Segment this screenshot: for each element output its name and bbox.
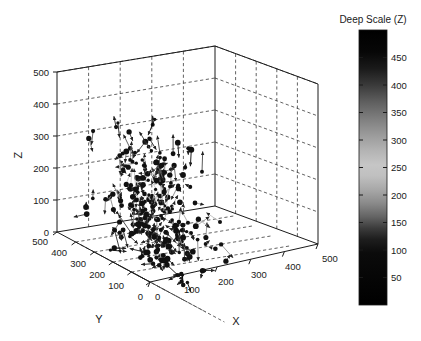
vector-origin-marker — [175, 140, 181, 146]
vector-origin-marker — [142, 223, 148, 229]
vector-origin-marker — [178, 251, 181, 254]
vector-origin-marker — [133, 186, 139, 192]
vector-origin-marker — [91, 197, 95, 201]
colorbar[interactable]: 450 400 350 300 250 200 150 100 50 Deep … — [339, 14, 406, 305]
vector-origin-marker — [130, 204, 134, 208]
vector-origin-marker — [141, 230, 145, 234]
vector-origin-marker — [127, 186, 131, 190]
x-tick-100: 100 — [184, 284, 200, 295]
vector-origin-marker — [164, 238, 169, 243]
x-axis-label: X — [232, 315, 240, 327]
z-tick-500: 500 — [33, 67, 49, 78]
vector-origin-marker — [116, 121, 119, 124]
colorbar-ticklabels: 450 400 350 300 250 200 150 100 50 — [391, 52, 407, 283]
vector-origin-marker — [163, 210, 166, 213]
x-tick-0: 0 — [155, 291, 160, 302]
vector-origin-marker — [171, 207, 174, 210]
vector-origin-marker — [91, 129, 95, 133]
vector-origin-marker — [135, 162, 138, 165]
colorbar-gradient-bar[interactable] — [359, 30, 387, 305]
vector-origin-marker — [193, 223, 199, 229]
vector-origin-marker — [158, 151, 162, 155]
vector-origin-marker — [196, 217, 201, 222]
vector-origin-marker — [182, 257, 187, 262]
figure-canvas: 500 400 300 200 100 0 Z 500 400 300 200 … — [0, 0, 421, 341]
vector-origin-marker — [149, 199, 154, 204]
vector-origin-marker — [203, 235, 208, 240]
vector-origin-marker — [143, 164, 147, 168]
z-tick-400: 400 — [33, 99, 49, 110]
vector-origin-marker — [158, 181, 162, 185]
vector-origin-marker — [200, 170, 204, 174]
vector-origin-marker — [140, 201, 145, 206]
vector-origin-marker — [204, 242, 208, 246]
colorbar-tick-350: 350 — [391, 107, 407, 118]
vector-origin-marker — [109, 248, 112, 251]
vector-origin-marker — [154, 159, 160, 165]
vector-origin-marker — [193, 201, 198, 206]
vector-origin-marker — [153, 118, 156, 121]
vector-origin-marker — [158, 156, 162, 160]
vector-origin-marker — [135, 217, 138, 220]
vector-arrow — [221, 244, 233, 258]
vector-origin-marker — [164, 230, 168, 234]
y-tick-0: 0 — [138, 291, 143, 302]
vector-origin-marker — [151, 261, 155, 265]
vector-origin-marker — [143, 216, 147, 220]
vector-field-arrows[interactable] — [74, 116, 233, 292]
plot-box-gridlines — [57, 46, 318, 322]
z-tick-200: 200 — [33, 163, 49, 174]
vector-origin-marker — [202, 268, 206, 272]
vector-arrow — [123, 230, 128, 248]
vector-origin-marker — [180, 235, 186, 241]
x-tick-200: 200 — [218, 276, 234, 287]
colorbar-tick-450: 450 — [391, 52, 407, 63]
colorbar-tick-50: 50 — [391, 272, 402, 283]
vector-origin-marker — [161, 253, 166, 258]
vector-origin-marker — [223, 259, 228, 264]
vector-origin-marker — [128, 146, 133, 151]
vector-origin-marker — [133, 228, 139, 234]
y-tick-100: 100 — [108, 280, 124, 291]
y-tick-300: 300 — [70, 258, 86, 269]
vector-origin-marker — [150, 204, 155, 209]
vector-origin-marker — [186, 281, 190, 285]
vector-origin-marker — [170, 218, 174, 222]
vector-origin-marker — [156, 218, 160, 222]
vector-origin-marker — [166, 206, 171, 211]
vector-origin-marker — [177, 199, 183, 205]
y-tick-500: 500 — [32, 236, 48, 247]
vector-origin-marker — [134, 198, 139, 203]
vector-origin-marker — [83, 204, 89, 210]
x-tick-500: 500 — [322, 253, 338, 264]
vector-origin-marker — [172, 163, 177, 168]
vector-origin-marker — [190, 249, 196, 255]
vector-origin-marker — [84, 211, 90, 217]
vector-origin-marker — [186, 221, 190, 225]
z-axis-ticks — [53, 72, 57, 232]
z-tick-300: 300 — [33, 131, 49, 142]
vector-origin-marker — [188, 147, 194, 153]
vector-origin-marker — [118, 198, 123, 203]
z-axis-ticklabels: 500 400 300 200 100 0 — [33, 67, 49, 238]
vector-origin-marker — [154, 188, 157, 191]
vector-origin-marker — [171, 151, 176, 156]
vector-origin-marker — [119, 203, 124, 208]
vector-origin-marker — [126, 129, 131, 134]
vector-origin-marker — [140, 182, 146, 188]
vector-arrow — [157, 136, 160, 153]
vector-origin-marker — [111, 207, 116, 212]
vector-origin-marker — [152, 234, 157, 239]
vector-origin-marker — [121, 169, 125, 173]
vector-origin-marker — [121, 228, 126, 233]
vector-origin-marker — [154, 249, 159, 254]
vector-origin-marker — [128, 158, 132, 162]
vector-origin-marker — [147, 137, 151, 141]
vector-origin-marker — [112, 245, 117, 250]
vector-origin-marker — [110, 192, 115, 197]
colorbar-tick-300: 300 — [391, 135, 407, 146]
vector-origin-marker — [158, 236, 161, 239]
x-tick-400: 400 — [285, 261, 301, 272]
vector-arrow — [118, 123, 120, 138]
vector-field-3d-plot[interactable]: 500 400 300 200 100 0 Z 500 400 300 200 … — [0, 0, 421, 341]
